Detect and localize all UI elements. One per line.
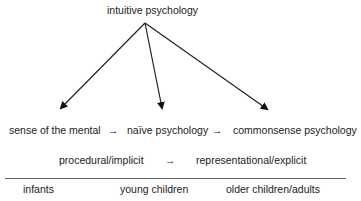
arrow-to-commonsense-psychology <box>145 23 267 109</box>
stage-arrow-icon: → <box>108 125 119 136</box>
age-group-infants: infants <box>23 184 54 195</box>
divider-line <box>5 178 346 179</box>
stage-commonsense-psychology: commonsense psychology <box>233 125 357 136</box>
stage-arrow-icon: → <box>212 125 223 136</box>
age-group-older-children-adults: older children/adults <box>226 184 320 195</box>
stage-sense-of-the-mental: sense of the mental <box>9 125 101 136</box>
mode-representational-explicit: representational/explicit <box>196 155 306 166</box>
stage-naive-psychology: naïve psychology <box>127 125 208 136</box>
arrow-to-sense-of-the-mental <box>61 23 145 108</box>
mode-arrow-icon: → <box>165 155 176 166</box>
mode-procedural-implicit: procedural/implicit <box>59 155 144 166</box>
arrow-to-naive-psychology <box>145 23 162 108</box>
branch-arrows <box>0 0 361 201</box>
age-group-young-children: young children <box>120 184 188 195</box>
